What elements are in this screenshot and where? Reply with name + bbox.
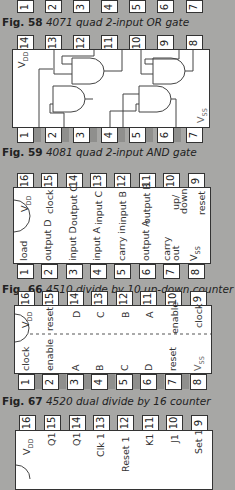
pin-7: 7 [186, 127, 203, 143]
label-c: C [96, 311, 106, 318]
label-output-c: output C [69, 185, 79, 226]
chip-4510-body: VDD clock output C input C input B outpu… [13, 187, 211, 264]
label-input-c: input C [94, 191, 104, 225]
pin-15: 15 [42, 291, 59, 306]
label-vdd: VDD [20, 195, 32, 212]
label-reset-2: reset [168, 347, 178, 371]
pin-6: 6 [140, 374, 157, 390]
label-clk1: Clk 1 [96, 433, 106, 457]
label-load: load [19, 241, 29, 261]
pin-13: 13 [45, 35, 62, 50]
label-vdd: VDD [21, 311, 33, 328]
pin-3: 3 [66, 264, 83, 279]
pin-11: 11 [140, 291, 157, 306]
pin-15: 15 [41, 173, 58, 188]
label-clock: clock [194, 304, 204, 328]
pin-14: 14 [69, 415, 86, 431]
pin-9: 9 [157, 35, 174, 50]
label-out: out [171, 245, 181, 261]
label-c-2: C [120, 364, 130, 371]
pin-4: 4 [101, 127, 118, 143]
chip-4081-body: VDD VSS [12, 49, 210, 128]
chip-next-body: VDD Q1 Q1 Clk 1 Reset 1 K1 J1 Set 1 [15, 430, 213, 490]
label-input-b: input B [118, 191, 128, 225]
label-enable: enable [170, 302, 180, 334]
pin-5: 5 [129, 127, 146, 143]
vdd-label: VDD [17, 51, 29, 68]
pin-1: 1 [17, 0, 34, 13]
pin-5: 5 [116, 374, 133, 390]
pin-7: 7 [163, 264, 180, 279]
label-vdd: VDD [22, 438, 34, 455]
pin-9: 9 [188, 173, 205, 188]
pin-1: 1 [17, 127, 34, 143]
label-vss: VSS [193, 356, 205, 371]
label-vss: VSS [189, 246, 201, 261]
label-k1: K1 [145, 434, 155, 446]
label-down: down [179, 188, 189, 214]
pin-11: 11 [101, 35, 118, 50]
pin-4: 4 [90, 264, 107, 279]
pin-2: 2 [42, 374, 59, 390]
pin-12: 12 [117, 415, 134, 431]
pin-1: 1 [17, 264, 34, 279]
pin-2: 2 [41, 264, 58, 279]
pin-3: 3 [73, 0, 90, 13]
label-reset: reset [197, 191, 207, 215]
label-b-2: B [95, 364, 105, 371]
label-reset1: Reset 1 [121, 436, 131, 472]
pin-6: 6 [157, 127, 174, 143]
vss-label: VSS [196, 108, 208, 123]
label-j1: J1 [170, 434, 180, 443]
label-enable-2: enable [45, 339, 55, 371]
label-set1: Set 1 [194, 429, 204, 454]
pin-10: 10 [163, 173, 180, 188]
pin-7: 7 [186, 0, 203, 13]
label-a-2: A [71, 365, 81, 372]
pin-13: 13 [93, 415, 110, 431]
label-output-a: output A [141, 220, 151, 261]
pin-3: 3 [73, 127, 90, 143]
label-output-d: output D [43, 219, 53, 261]
pin-8: 8 [190, 374, 207, 390]
pin-4: 4 [101, 0, 118, 13]
pin-8: 8 [186, 35, 203, 50]
label-clock-2: clock [21, 347, 31, 371]
pin-16: 16 [18, 291, 35, 306]
pin-8: 8 [188, 264, 205, 279]
pin-2: 2 [45, 0, 62, 13]
pin-14: 14 [67, 291, 84, 306]
pin-12: 12 [114, 173, 131, 188]
pin-3: 3 [67, 374, 84, 390]
label-reset: reset [45, 307, 55, 331]
label-d: D [72, 311, 82, 318]
fig58-caption: Fig. 58 4071 quad 2-input OR gate [2, 16, 189, 28]
label-a: A [145, 312, 155, 319]
pin-10: 10 [166, 415, 183, 431]
label-input-a: input A [92, 227, 102, 261]
pin-16: 16 [17, 173, 34, 188]
pin-13: 13 [91, 291, 108, 306]
and-gates-schematic [13, 50, 209, 127]
pin-10: 10 [129, 35, 146, 50]
pin-7: 7 [165, 374, 182, 390]
pin-2: 2 [45, 127, 62, 143]
pin-6: 6 [157, 0, 174, 13]
label-input-d: input D [68, 226, 78, 261]
pin-1: 1 [18, 374, 35, 390]
pin-13: 13 [90, 173, 107, 188]
label-output-b: output B [142, 183, 152, 224]
pin-5: 5 [114, 264, 131, 279]
label-b: B [121, 311, 131, 318]
pin-12: 12 [116, 291, 133, 306]
pin-6: 6 [139, 264, 156, 279]
pin-14: 14 [17, 35, 34, 50]
label-carry-in: carry in [117, 225, 127, 261]
pin-16: 16 [19, 415, 36, 431]
pin-4: 4 [91, 374, 108, 390]
label-d-2: D [144, 364, 154, 371]
label-q1: Q1 [72, 432, 82, 446]
label-q1-bar: Q1 [47, 432, 57, 446]
pin-11: 11 [142, 415, 159, 431]
pin-5: 5 [129, 0, 146, 13]
